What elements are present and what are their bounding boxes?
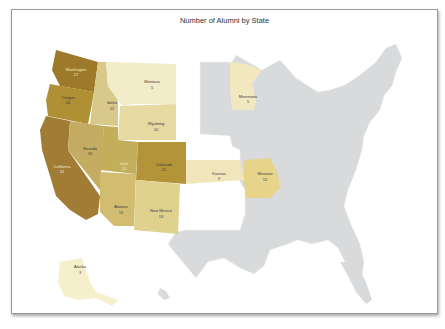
state-new-mexico <box>134 180 180 234</box>
label-arizona-name: Arizona <box>114 204 128 209</box>
label-montana-name: Montana <box>144 79 160 84</box>
label-new-mexico-value: 13 <box>159 214 164 219</box>
label-colorado-value: 21 <box>162 167 167 172</box>
state-hawaii <box>158 288 170 300</box>
us-map: Washington 27 Oregon 20 California 31 Id… <box>0 0 445 329</box>
label-new-mexico-name: New Mexico <box>150 208 173 213</box>
label-nevada-value: 19 <box>88 151 93 156</box>
label-washington-value: 27 <box>74 72 79 77</box>
state-arizona <box>100 172 136 226</box>
label-alaska-name: Alaska <box>74 264 87 269</box>
state-alaska <box>58 258 118 306</box>
label-wyoming-value: 10 <box>154 127 159 132</box>
label-arizona-value: 15 <box>119 210 124 215</box>
label-idaho-name: Idaho <box>107 100 118 105</box>
label-utah-value: 14 <box>122 166 127 171</box>
label-oregon-value: 20 <box>66 100 71 105</box>
label-wyoming-name: Wyoming <box>148 121 165 126</box>
label-missouri-value: 12 <box>263 177 268 182</box>
state-florida <box>340 262 372 304</box>
label-california-value: 31 <box>60 169 65 174</box>
label-missouri-name: Missouri <box>258 171 273 176</box>
label-idaho-value: 12 <box>110 106 115 111</box>
